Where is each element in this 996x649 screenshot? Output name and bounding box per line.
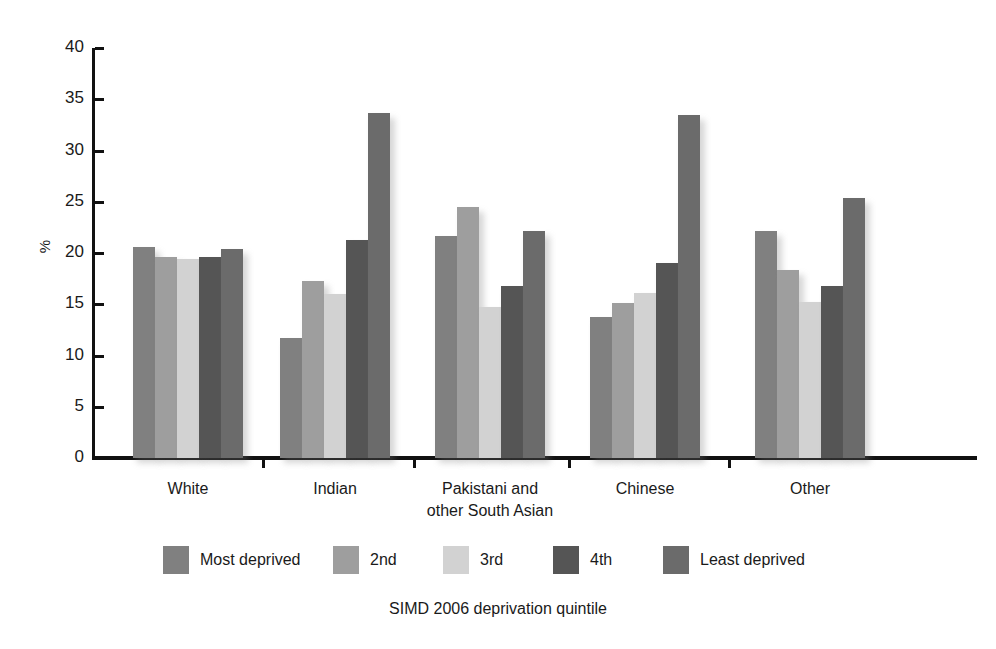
x-axis-group-tick — [413, 459, 416, 468]
bar — [656, 263, 678, 458]
bar-group — [590, 48, 700, 458]
legend-label: 4th — [590, 551, 612, 569]
bar-fill — [155, 257, 177, 458]
bar — [479, 307, 501, 458]
bar-group — [755, 48, 865, 458]
legend-swatch — [443, 546, 469, 574]
bar-fill — [821, 286, 843, 458]
legend-label: Most deprived — [200, 551, 301, 569]
bar — [777, 270, 799, 458]
bar — [435, 236, 457, 458]
bar-fill — [612, 303, 634, 458]
category-label-line: other South Asian — [385, 500, 595, 522]
chart-legend: Most deprived2nd3rd4thLeast deprived — [0, 542, 996, 582]
bar-chart: % 0510152025303540 WhiteIndianPakistani … — [0, 0, 996, 649]
x-axis-title: SIMD 2006 deprivation quintile — [0, 600, 996, 618]
x-axis-category-label: Other — [705, 478, 915, 500]
bar — [843, 198, 865, 458]
legend-swatch — [553, 546, 579, 574]
bar-fill — [324, 294, 346, 458]
bar-fill — [435, 236, 457, 458]
bar-group — [280, 48, 390, 458]
bar — [457, 207, 479, 458]
bar-fill — [346, 240, 368, 458]
x-axis-group-tick — [568, 459, 571, 468]
y-axis-tick-label: 25 — [42, 191, 84, 211]
bar — [523, 231, 545, 458]
y-axis-tick-label: 30 — [42, 140, 84, 160]
bar-fill — [302, 281, 324, 458]
bar-fill — [501, 286, 523, 458]
legend-item: Most deprived — [163, 542, 301, 578]
bar-fill — [634, 293, 656, 458]
bar-fill — [177, 259, 199, 458]
legend-label: 3rd — [480, 551, 503, 569]
bar-fill — [199, 257, 221, 458]
bar-fill — [479, 307, 501, 458]
bar — [821, 286, 843, 458]
legend-item: 2nd — [333, 542, 397, 578]
bar-fill — [221, 249, 243, 458]
bar-group — [133, 48, 243, 458]
x-axis-group-tick — [262, 459, 265, 468]
category-label-line: Other — [705, 478, 915, 500]
legend-item: 4th — [553, 542, 612, 578]
legend-label: 2nd — [370, 551, 397, 569]
bar — [346, 240, 368, 458]
bar — [590, 317, 612, 458]
x-axis-group-tick — [728, 459, 731, 468]
y-axis-tick-label: 20 — [42, 242, 84, 262]
legend-item: 3rd — [443, 542, 503, 578]
bar — [799, 302, 821, 458]
bar-fill — [678, 115, 700, 458]
bar-fill — [799, 302, 821, 458]
legend-swatch — [663, 546, 689, 574]
bar — [133, 247, 155, 458]
legend-item: Least deprived — [663, 542, 805, 578]
bar-group — [435, 48, 545, 458]
bar-fill — [133, 247, 155, 458]
legend-label: Least deprived — [700, 551, 805, 569]
bar-fill — [777, 270, 799, 458]
bar-fill — [755, 231, 777, 458]
bar-fill — [280, 338, 302, 458]
bar — [177, 259, 199, 458]
bar-fill — [523, 231, 545, 458]
bar — [324, 294, 346, 458]
bar-fill — [843, 198, 865, 458]
y-axis-tick-label: 15 — [42, 293, 84, 313]
bar-fill — [656, 263, 678, 458]
legend-swatch — [163, 546, 189, 574]
bar — [155, 257, 177, 458]
bar — [368, 113, 390, 458]
bar-fill — [457, 207, 479, 458]
bar-fill — [368, 113, 390, 458]
bar — [678, 115, 700, 458]
bar — [612, 303, 634, 458]
y-axis-tick-label: 10 — [42, 345, 84, 365]
bar — [221, 249, 243, 458]
plot-area — [95, 48, 975, 458]
bar — [199, 257, 221, 458]
legend-swatch — [333, 546, 359, 574]
y-axis-tick-label: 35 — [42, 88, 84, 108]
bar — [501, 286, 523, 458]
bar-fill — [590, 317, 612, 458]
bar — [280, 338, 302, 458]
y-axis-tick-label: 0 — [42, 447, 84, 467]
bar — [755, 231, 777, 458]
y-axis-tick-label: 40 — [42, 37, 84, 57]
bar — [634, 293, 656, 458]
y-axis-tick-label: 5 — [42, 396, 84, 416]
bar — [302, 281, 324, 458]
